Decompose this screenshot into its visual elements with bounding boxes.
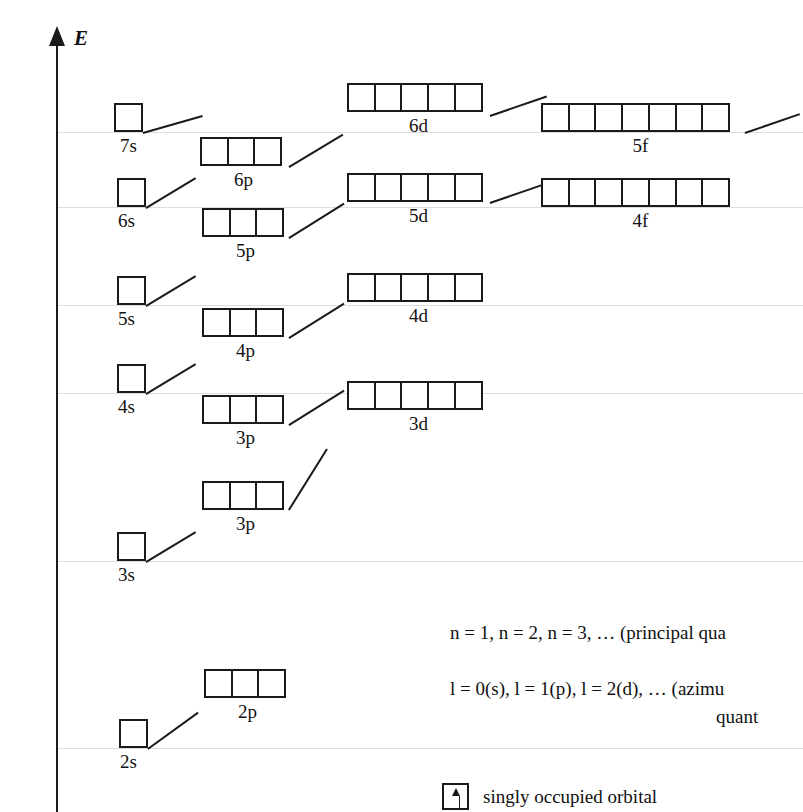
orbital-4s-boxes [117, 364, 146, 393]
orbital-cell[interactable] [374, 173, 403, 202]
orbital-3p-lower[interactable]: 3p [202, 481, 289, 510]
orbital-cell[interactable] [117, 364, 146, 393]
orbital-cell[interactable] [454, 83, 483, 112]
singly-occupied-orbital-icon [442, 783, 469, 810]
note-azimuthal-quantum-number-line2: quant [716, 706, 758, 728]
orbital-4p[interactable]: 4p [202, 308, 289, 337]
orbital-cell[interactable] [427, 381, 456, 410]
orbital-2s-label: 2s [120, 751, 149, 773]
orbital-2s-boxes [119, 719, 148, 748]
orbital-cell[interactable] [119, 719, 148, 748]
orbital-6p-label: 6p [200, 169, 287, 191]
orbital-5p-label: 5p [202, 240, 289, 262]
orbital-cell[interactable] [621, 103, 650, 132]
orbital-cell[interactable] [568, 103, 597, 132]
orbital-cell[interactable] [621, 178, 650, 207]
orbital-cell[interactable] [255, 308, 284, 337]
orbital-2p-label: 2p [204, 701, 291, 723]
orbital-cell[interactable] [701, 178, 730, 207]
orbital-5s[interactable]: 5s [117, 276, 146, 305]
orbital-3p[interactable]: 3p [202, 395, 289, 424]
orbital-cell[interactable] [454, 381, 483, 410]
orbital-cell[interactable] [229, 481, 258, 510]
orbital-cell[interactable] [400, 83, 429, 112]
orbital-cell[interactable] [400, 173, 429, 202]
orbital-7s[interactable]: 7s [114, 103, 143, 132]
orbital-3p-lower-boxes [202, 481, 289, 510]
orbital-cell[interactable] [255, 208, 284, 237]
orbital-5p[interactable]: 5p [202, 208, 289, 237]
orbital-4d[interactable]: 4d [347, 273, 490, 302]
orbital-cell[interactable] [347, 381, 376, 410]
orbital-cell[interactable] [229, 395, 258, 424]
orbital-2p[interactable]: 2p [204, 669, 291, 698]
orbital-6d[interactable]: 6d [347, 83, 490, 112]
orbital-cell[interactable] [114, 103, 143, 132]
orbital-4s[interactable]: 4s [117, 364, 146, 393]
orbital-cell[interactable] [204, 669, 233, 698]
orbital-4p-boxes [202, 308, 289, 337]
orbital-cell[interactable] [374, 381, 403, 410]
orbital-cell[interactable] [200, 137, 229, 166]
orbital-cell[interactable] [257, 669, 286, 698]
orbital-cell[interactable] [255, 395, 284, 424]
orbital-cell[interactable] [648, 103, 677, 132]
orbital-cell[interactable] [231, 669, 260, 698]
orbital-cell[interactable] [454, 273, 483, 302]
orbital-cell[interactable] [253, 137, 282, 166]
orbital-cell[interactable] [675, 103, 704, 132]
orbital-cell[interactable] [675, 178, 704, 207]
orbital-cell[interactable] [117, 532, 146, 561]
orbital-cell[interactable] [427, 83, 456, 112]
orbital-4d-boxes [347, 273, 490, 302]
orbital-cell[interactable] [594, 103, 623, 132]
orbital-5s-boxes [117, 276, 146, 305]
note-azimuthal-quantum-number: l = 0(s), l = 1(p), l = 2(d), … (azimu [450, 678, 724, 700]
orbital-cell[interactable] [594, 178, 623, 207]
orbital-cell[interactable] [347, 273, 376, 302]
connector-5s-4p [145, 275, 196, 307]
orbital-cell[interactable] [202, 208, 231, 237]
orbital-cell[interactable] [229, 308, 258, 337]
orbital-cell[interactable] [427, 173, 456, 202]
orbital-cell[interactable] [648, 178, 677, 207]
orbital-cell[interactable] [202, 395, 231, 424]
orbital-cell[interactable] [541, 178, 570, 207]
connector-5p-5d [288, 203, 344, 239]
orbital-3d[interactable]: 3d [347, 381, 490, 410]
orbital-cell[interactable] [202, 481, 231, 510]
orbital-cell[interactable] [400, 381, 429, 410]
orbital-cell[interactable] [227, 137, 256, 166]
connector-6d-5f [490, 96, 548, 118]
orbital-5p-boxes [202, 208, 289, 237]
orbital-3s-boxes [117, 532, 146, 561]
gridline-2s [58, 748, 803, 749]
orbital-cell[interactable] [400, 273, 429, 302]
orbital-4d-label: 4d [347, 305, 490, 327]
orbital-6s-label: 6s [118, 210, 147, 232]
orbital-5f[interactable]: 5f [541, 103, 740, 132]
orbital-cell[interactable] [427, 273, 456, 302]
orbital-cell[interactable] [255, 481, 284, 510]
orbital-cell[interactable] [117, 276, 146, 305]
orbital-3s[interactable]: 3s [117, 532, 146, 561]
orbital-cell[interactable] [374, 273, 403, 302]
orbital-3p-boxes [202, 395, 289, 424]
connector-3p-3d [288, 390, 344, 426]
orbital-6s-boxes [117, 178, 146, 207]
orbital-cell[interactable] [229, 208, 258, 237]
orbital-cell[interactable] [701, 103, 730, 132]
orbital-6s[interactable]: 6s [117, 178, 146, 207]
orbital-2s[interactable]: 2s [119, 719, 148, 748]
orbital-cell[interactable] [541, 103, 570, 132]
orbital-cell[interactable] [454, 173, 483, 202]
orbital-cell[interactable] [568, 178, 597, 207]
orbital-5d[interactable]: 5d [347, 173, 490, 202]
orbital-cell[interactable] [347, 83, 376, 112]
orbital-cell[interactable] [347, 173, 376, 202]
orbital-6p[interactable]: 6p [200, 137, 287, 166]
orbital-cell[interactable] [374, 83, 403, 112]
orbital-cell[interactable] [202, 308, 231, 337]
orbital-4f[interactable]: 4f [541, 178, 740, 207]
orbital-cell[interactable] [117, 178, 146, 207]
